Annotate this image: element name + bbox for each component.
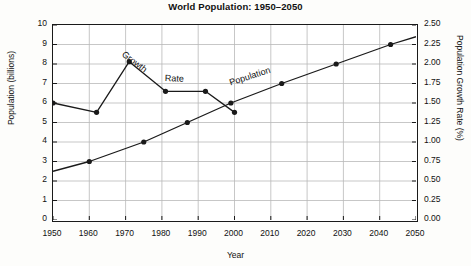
x-axis-title: Year — [0, 250, 471, 260]
y-tick-left-6: 6 — [7, 96, 47, 106]
y-tick-right-1.50: 1.50 — [424, 96, 464, 106]
chart-title: World Population: 1950–2050 — [0, 1, 471, 12]
y-tick-left-4: 4 — [7, 135, 47, 145]
plot-area: GrowthRatePopulation — [52, 24, 418, 222]
x-tick-1970: 1970 — [105, 228, 145, 238]
chart-container: World Population: 1950–2050 Population (… — [0, 0, 471, 266]
y-tick-right-0.25: 0.25 — [424, 194, 464, 204]
x-tick-1980: 1980 — [141, 228, 181, 238]
y-tick-left-5: 5 — [7, 116, 47, 126]
y-tick-right-0.75: 0.75 — [424, 155, 464, 165]
y-tick-right-2.00: 2.00 — [424, 57, 464, 67]
x-tick-1990: 1990 — [177, 228, 217, 238]
y-tick-left-0: 0 — [7, 213, 47, 223]
y-tick-right-1.25: 1.25 — [424, 116, 464, 126]
x-tick-2040: 2040 — [359, 228, 399, 238]
x-tick-1950: 1950 — [32, 228, 72, 238]
y-tick-left-9: 9 — [7, 38, 47, 48]
y-tick-left-10: 10 — [7, 18, 47, 28]
y-tick-left-1: 1 — [7, 194, 47, 204]
y-tick-left-2: 2 — [7, 174, 47, 184]
x-tick-2010: 2010 — [250, 228, 290, 238]
y-tick-right-2.25: 2.25 — [424, 38, 464, 48]
y-tick-left-3: 3 — [7, 155, 47, 165]
x-tick-2050: 2050 — [395, 228, 435, 238]
y-tick-right-2.50: 2.50 — [424, 18, 464, 28]
x-tick-2030: 2030 — [322, 228, 362, 238]
x-tick-1960: 1960 — [68, 228, 108, 238]
y-tick-left-7: 7 — [7, 77, 47, 87]
growth-rate-label-part2: Rate — [165, 73, 184, 84]
plot-svg — [53, 25, 416, 220]
x-tick-2000: 2000 — [214, 228, 254, 238]
y-tick-right-1.75: 1.75 — [424, 77, 464, 87]
x-tick-2020: 2020 — [286, 228, 326, 238]
y-tick-right-0.00: 0.00 — [424, 213, 464, 223]
y-tick-right-0.50: 0.50 — [424, 174, 464, 184]
y-tick-right-1.00: 1.00 — [424, 135, 464, 145]
y-tick-left-8: 8 — [7, 57, 47, 67]
